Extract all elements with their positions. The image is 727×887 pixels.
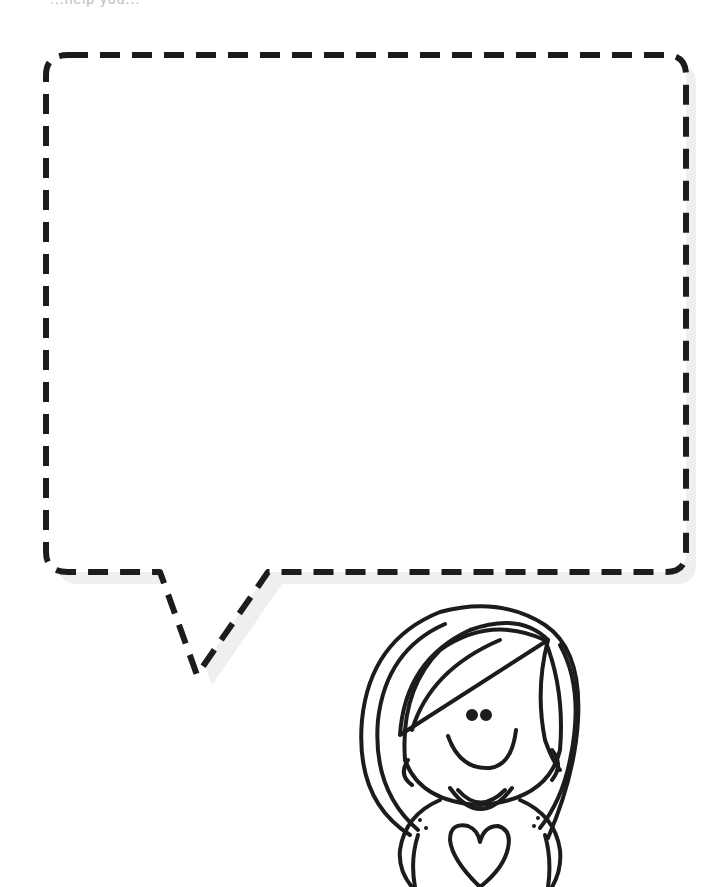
- freckle: [424, 826, 428, 830]
- arm-left: [413, 835, 418, 887]
- arm-right: [545, 835, 549, 887]
- eye-left-icon: [468, 711, 476, 719]
- worksheet-canvas: [0, 0, 727, 887]
- girl-character-illustration: [361, 606, 578, 887]
- freckle: [536, 816, 540, 820]
- shirt-right: [520, 800, 560, 887]
- freckle: [418, 818, 422, 822]
- shirt-left: [400, 800, 440, 887]
- heart-icon: [450, 825, 509, 887]
- eye-right-icon: [482, 711, 490, 719]
- freckle: [532, 824, 536, 828]
